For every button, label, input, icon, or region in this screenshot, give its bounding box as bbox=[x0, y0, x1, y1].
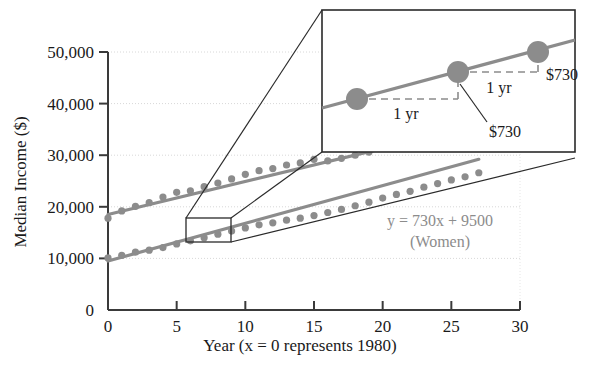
data-point bbox=[365, 199, 372, 206]
y-tick-label-40000: 40,000 bbox=[47, 95, 94, 114]
magnified-inset: 1 yr 1 yr $730 $730 bbox=[322, 10, 578, 152]
equation-label: y = 730x + 9500 bbox=[387, 212, 493, 230]
data-point bbox=[269, 219, 276, 226]
data-point bbox=[173, 189, 180, 196]
figure-container: 010,00020,00030,00040,00050,000 05101520… bbox=[0, 0, 593, 382]
data-point bbox=[255, 221, 262, 228]
data-point bbox=[242, 171, 249, 178]
y-axis-ticks bbox=[99, 52, 108, 258]
inset-rise-label-right: $730 bbox=[546, 66, 578, 83]
x-axis-title: Year (x = 0 represents 1980) bbox=[203, 336, 396, 355]
x-tick-label-5: 5 bbox=[172, 317, 181, 336]
data-point bbox=[159, 244, 166, 251]
data-point bbox=[187, 237, 194, 244]
data-point bbox=[214, 179, 221, 186]
data-point bbox=[283, 161, 290, 168]
data-point bbox=[461, 173, 468, 180]
y-tick-labels: 010,00020,00030,00040,00050,000 bbox=[47, 43, 94, 320]
data-point bbox=[448, 176, 455, 183]
data-point bbox=[201, 234, 208, 241]
data-point bbox=[159, 193, 166, 200]
data-point bbox=[338, 155, 345, 162]
inset-run-label-left: 1 yr bbox=[393, 105, 419, 123]
data-point bbox=[434, 180, 441, 187]
data-point bbox=[407, 188, 414, 195]
x-tick-label-20: 20 bbox=[374, 317, 391, 336]
x-tick-label-25: 25 bbox=[443, 317, 460, 336]
data-point bbox=[214, 231, 221, 238]
data-point bbox=[118, 207, 125, 214]
inset-run-label-right: 1 yr bbox=[486, 79, 512, 97]
x-axis-ticks bbox=[108, 301, 520, 310]
data-point bbox=[310, 212, 317, 219]
data-point bbox=[228, 175, 235, 182]
data-point bbox=[324, 157, 331, 164]
inset-point-2 bbox=[447, 61, 469, 83]
x-tick-label-10: 10 bbox=[237, 317, 254, 336]
inset-rise-label-center: $730 bbox=[489, 123, 521, 140]
data-point bbox=[173, 240, 180, 247]
data-point bbox=[132, 249, 139, 256]
data-point bbox=[132, 203, 139, 210]
y-tick-label-50000: 50,000 bbox=[47, 43, 94, 62]
x-tick-label-15: 15 bbox=[306, 317, 323, 336]
inset-point-3 bbox=[527, 41, 549, 63]
zoom-leader-top-left bbox=[186, 10, 322, 218]
data-point bbox=[104, 215, 111, 222]
data-point bbox=[379, 194, 386, 201]
equation-group-label: (Women) bbox=[410, 233, 470, 251]
x-tick-label-0: 0 bbox=[104, 317, 113, 336]
y-axis-title: Median Income ($) bbox=[11, 116, 30, 247]
data-point bbox=[242, 224, 249, 231]
data-point bbox=[146, 199, 153, 206]
x-tick-label-30: 30 bbox=[512, 317, 529, 336]
data-point bbox=[297, 215, 304, 222]
y-tick-label-10000: 10,000 bbox=[47, 249, 94, 268]
y-tick-label-0: 0 bbox=[86, 301, 95, 320]
data-point bbox=[420, 184, 427, 191]
data-point bbox=[118, 252, 125, 259]
inset-point-1 bbox=[346, 88, 368, 110]
income-scatter-chart: 010,00020,00030,00040,00050,000 05101520… bbox=[0, 0, 593, 382]
inset-background bbox=[322, 10, 575, 152]
zoom-leader-top-right bbox=[231, 152, 322, 218]
data-point bbox=[255, 167, 262, 174]
data-point bbox=[338, 206, 345, 213]
y-tick-label-20000: 20,000 bbox=[47, 198, 94, 217]
data-point bbox=[393, 191, 400, 198]
data-point bbox=[475, 169, 482, 176]
data-point bbox=[146, 247, 153, 254]
data-point bbox=[352, 202, 359, 209]
zoom-leader-bottom-right bbox=[231, 158, 575, 242]
data-point bbox=[324, 209, 331, 216]
data-point bbox=[104, 254, 111, 261]
data-point bbox=[269, 165, 276, 172]
x-tick-labels: 051015202530 bbox=[104, 317, 529, 336]
data-point bbox=[187, 187, 194, 194]
y-tick-label-30000: 30,000 bbox=[47, 146, 94, 165]
data-point bbox=[283, 217, 290, 224]
